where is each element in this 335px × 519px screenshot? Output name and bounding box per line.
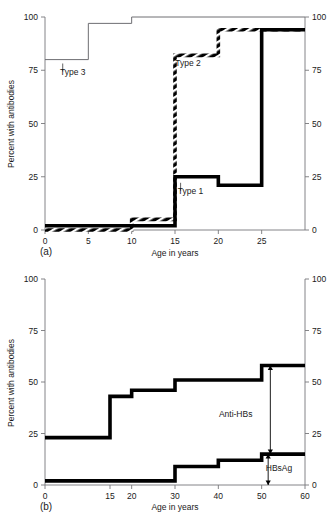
y-tick-label-right: 100 (312, 274, 326, 284)
series-line-type-3 (45, 17, 305, 60)
x-tick-label: 10 (127, 236, 137, 246)
panel-b-annotations: Anti-HBsHBsAg (219, 366, 293, 485)
y-tick-label-right: 75 (312, 326, 322, 336)
panel-b-x-axis-title: Age in years (151, 502, 198, 512)
y-tick-label-left: 75 (29, 326, 39, 336)
y-tick-label-right: 100 (312, 12, 326, 22)
panel-a-y-axis-title: Percent with antibodies (6, 80, 16, 168)
panel-b-plot: 015203040506000252550507575100100 Anti-H… (0, 257, 335, 519)
y-tick-label-left: 0 (33, 225, 38, 235)
series-annotation-label: Type 2 (175, 58, 201, 68)
y-tick-label-right: 25 (312, 172, 322, 182)
series-annotation-label: Type 3 (60, 67, 86, 77)
x-tick-label: 20 (127, 491, 137, 501)
panel-a-plot: 051015202500252550507575100100 Type 3Typ… (0, 0, 335, 262)
panel-b-label: (b) (40, 501, 52, 512)
x-tick-label: 30 (170, 491, 180, 501)
y-tick-label-left: 25 (29, 172, 39, 182)
x-tick-label: 40 (214, 491, 224, 501)
x-tick-label: 15 (170, 236, 180, 246)
y-tick-label-right: 25 (312, 429, 322, 439)
panel-a: 051015202500252550507575100100 Type 3Typ… (0, 0, 335, 262)
y-tick-label-right: 75 (312, 65, 322, 75)
y-tick-label-left: 100 (24, 274, 38, 284)
y-tick-label-right: 50 (312, 119, 322, 129)
y-tick-label-left: 50 (29, 119, 39, 129)
x-tick-label: 0 (43, 236, 48, 246)
y-tick-label-left: 0 (33, 480, 38, 490)
series-annotation-label: Type 1 (178, 186, 204, 196)
x-tick-label: 50 (257, 491, 267, 501)
y-tick-label-left: 75 (29, 65, 39, 75)
x-tick-label: 20 (214, 236, 224, 246)
series-line-anti-hbs (45, 366, 305, 438)
figure-container: 051015202500252550507575100100 Type 3Typ… (0, 0, 335, 519)
y-tick-label-left: 50 (29, 377, 39, 387)
x-tick-label: 60 (300, 491, 310, 501)
series-annotation-label: HBsAg (266, 463, 293, 473)
panel-b: 015203040506000252550507575100100 Anti-H… (0, 257, 335, 519)
panel-b-y-axis-title: Percent with antibodies (6, 339, 16, 427)
y-tick-label-left: 100 (24, 12, 38, 22)
y-tick-label-right: 50 (312, 377, 322, 387)
x-tick-label: 15 (105, 491, 115, 501)
x-tick-label: 0 (43, 491, 48, 501)
x-tick-label: 5 (86, 236, 91, 246)
panel-a-label: (a) (40, 246, 52, 257)
series-annotation-label: Anti-HBs (219, 409, 253, 419)
y-tick-label-right: 0 (312, 480, 317, 490)
x-tick-label: 25 (257, 236, 267, 246)
panel-a-series (45, 17, 305, 230)
y-tick-label-left: 25 (29, 429, 39, 439)
y-tick-label-right: 0 (312, 225, 317, 235)
